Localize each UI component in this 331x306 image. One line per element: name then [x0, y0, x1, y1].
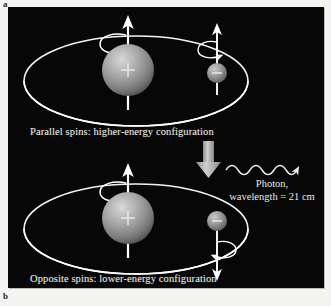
hydrogen-hyperfine-diagram: Parallel spins: higher-energy configurat… [8, 7, 324, 288]
figure-root: a [0, 0, 331, 306]
bottom-panel-group [24, 170, 248, 275]
transition-group [196, 141, 297, 178]
top-panel-group [24, 22, 248, 126]
figure-part-label-a: a [3, 0, 8, 9]
caption-parallel-spins: Parallel spins: higher-energy configurat… [30, 126, 214, 137]
diagram-canvas [8, 7, 324, 288]
photon-label-line2: wavelength = 21 cm [220, 191, 324, 204]
caption-opposite-spins: Opposite spins: lower-energy configurati… [30, 273, 217, 284]
proton-spin-curl-bottom [100, 182, 126, 192]
figure-part-label-b: b [3, 292, 8, 301]
electron-spin-curl-bottom [217, 241, 236, 250]
photon-wave-icon [226, 166, 297, 175]
proton-spin-curl-top [100, 34, 126, 44]
photon-label: Photon, wavelength = 21 cm [220, 178, 324, 203]
energy-transition-arrow [196, 141, 221, 178]
photon-label-line1: Photon, [220, 178, 324, 191]
